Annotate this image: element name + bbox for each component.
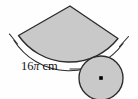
tick-mark-right-icon xyxy=(120,37,129,47)
arc-length-label: 16π cm xyxy=(21,59,58,73)
circle-center-point-icon xyxy=(99,76,103,80)
sector-shape xyxy=(19,6,119,62)
pi-symbol: π xyxy=(34,60,40,72)
tick-mark-left-icon xyxy=(10,34,18,44)
geometry-figure: 16π cm xyxy=(0,0,138,99)
arc-length-value: 16 xyxy=(21,59,34,73)
figure-canvas xyxy=(0,0,138,99)
arc-length-unit: cm xyxy=(42,59,57,73)
